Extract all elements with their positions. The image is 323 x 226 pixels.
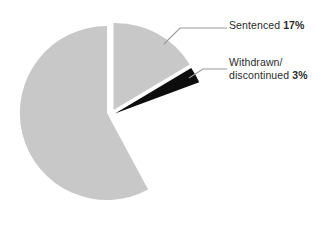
slice-label-withdrawn: Withdrawn/ discontinued 3% [229, 56, 308, 81]
slice-label-withdrawn-line2: discontinued [229, 69, 289, 81]
pie-chart-graphic [0, 0, 323, 226]
pie-chart-figure: Sentenced 17% Withdrawn/ discontinued 3% [0, 0, 323, 226]
slice-label-withdrawn-line2-wrap: discontinued 3% [229, 69, 308, 82]
leader-line-sentenced [164, 28, 227, 44]
slice-label-sentenced-text: Sentenced [229, 19, 280, 31]
slice-label-sentenced-percent: 17% [283, 19, 304, 31]
slice-label-withdrawn-percent: 3% [292, 69, 307, 81]
slice-label-withdrawn-line1: Withdrawn/ [229, 56, 308, 69]
slice-label-sentenced: Sentenced 17% [229, 19, 304, 32]
